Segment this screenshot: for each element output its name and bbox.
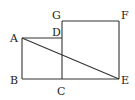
label-E: E: [121, 74, 129, 87]
geometry-diagram: A B C D G F E: [0, 0, 135, 100]
label-A: A: [9, 32, 19, 45]
label-F: F: [121, 9, 129, 22]
label-G: G: [52, 9, 61, 22]
label-C: C: [57, 85, 65, 98]
segment-AE: [22, 38, 119, 79]
label-D: D: [52, 26, 61, 39]
label-B: B: [10, 74, 18, 87]
